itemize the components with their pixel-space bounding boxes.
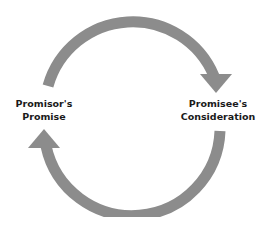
right-label-line1: Promisee's <box>178 97 258 110</box>
left-label-line1: Promisor's <box>6 97 82 110</box>
arrow-head-down-right-icon <box>200 74 232 93</box>
arrow-head-up-left-icon <box>28 129 60 148</box>
top-arc-arrow-shaft <box>48 22 214 86</box>
promisees-consideration-label: Promisee's Consideration <box>178 97 258 123</box>
left-label-line2: Promise <box>6 110 82 123</box>
bottom-arc-arrow-shaft <box>46 131 220 216</box>
promisors-promise-label: Promisor's Promise <box>6 97 82 123</box>
right-label-line2: Consideration <box>178 110 258 123</box>
